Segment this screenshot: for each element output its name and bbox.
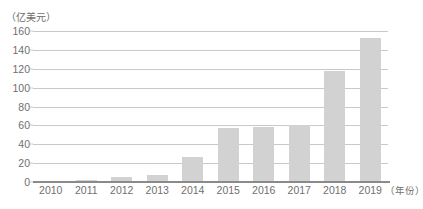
bars-group bbox=[33, 31, 388, 182]
y-axis-unit-label: （亿美元） bbox=[6, 12, 56, 24]
bar bbox=[182, 157, 203, 182]
x-axis-tick-label: 2010 bbox=[39, 184, 62, 197]
x-axis-tick-labels: 2010201120122013201420152016201720182019 bbox=[33, 184, 388, 204]
y-axis-tick-label: 80 bbox=[18, 101, 30, 112]
bar bbox=[253, 127, 274, 182]
plot-area: 020406080100120140160 bbox=[33, 31, 388, 182]
y-axis-tick-label: 160 bbox=[12, 26, 30, 37]
x-axis-tick-label: 2018 bbox=[323, 184, 346, 197]
y-axis-tick-label: 0 bbox=[24, 177, 30, 188]
x-axis-line bbox=[33, 181, 390, 183]
x-axis-tick-label: 2016 bbox=[252, 184, 275, 197]
x-axis-tick-label: 2012 bbox=[110, 184, 133, 197]
bar bbox=[360, 38, 381, 182]
y-axis-tick-label: 20 bbox=[18, 158, 30, 169]
bar bbox=[218, 128, 239, 182]
y-axis-tick-label: 140 bbox=[12, 44, 30, 55]
y-axis-tick-label: 100 bbox=[12, 82, 30, 93]
y-axis-tick-label: 40 bbox=[18, 139, 30, 150]
x-axis-tick-label: 2019 bbox=[359, 184, 382, 197]
x-axis-tick-label: 2014 bbox=[181, 184, 204, 197]
y-axis-tick-label: 60 bbox=[18, 120, 30, 131]
x-axis-tick-label: 2015 bbox=[217, 184, 240, 197]
bar bbox=[289, 125, 310, 182]
bar bbox=[324, 71, 345, 182]
y-axis-tick-label: 120 bbox=[12, 63, 30, 74]
x-axis-tick-label: 2017 bbox=[288, 184, 311, 197]
x-axis-unit-label: （年份） bbox=[385, 185, 423, 197]
x-axis-tick-label: 2011 bbox=[75, 184, 98, 197]
x-axis-tick-label: 2013 bbox=[146, 184, 169, 197]
